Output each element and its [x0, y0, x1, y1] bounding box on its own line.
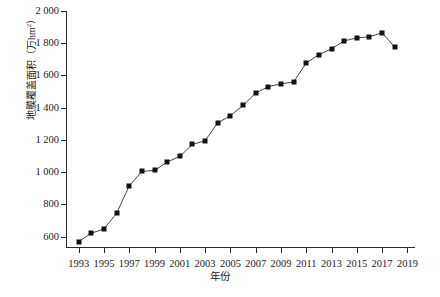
y-axis-tick-label: 1 000 — [35, 167, 59, 178]
y-axis-tick — [61, 140, 66, 141]
data-point — [76, 239, 81, 244]
data-point — [215, 120, 220, 125]
x-axis-line — [66, 247, 415, 248]
x-axis-tick — [205, 248, 206, 253]
x-axis-tick — [332, 248, 333, 253]
x-axis-tick — [357, 248, 358, 253]
data-point — [139, 169, 144, 174]
y-axis-tick-label: 600 — [43, 231, 59, 242]
x-axis-tick — [382, 248, 383, 253]
data-point — [228, 113, 233, 118]
data-point — [241, 103, 246, 108]
data-point — [190, 142, 195, 147]
data-point — [165, 160, 170, 165]
data-point — [354, 35, 359, 40]
data-point — [380, 30, 385, 35]
x-axis-tick — [79, 248, 80, 253]
y-axis-tick-label: 1 800 — [35, 38, 59, 49]
x-axis-tick — [155, 248, 156, 253]
y-axis-tick — [61, 108, 66, 109]
y-axis-tick-label: 1 400 — [35, 102, 59, 113]
data-point — [329, 46, 334, 51]
data-point — [89, 231, 94, 236]
data-point — [304, 60, 309, 65]
data-point — [177, 154, 182, 159]
data-point — [367, 34, 372, 39]
data-point — [127, 183, 132, 188]
data-point — [392, 45, 397, 50]
x-axis-tick — [129, 248, 130, 253]
y-axis-tick — [61, 11, 66, 12]
x-axis-tick — [306, 248, 307, 253]
y-axis-line — [66, 11, 67, 248]
x-axis-tick — [230, 248, 231, 253]
y-axis-tick — [61, 43, 66, 44]
data-point — [203, 138, 208, 143]
plot-region: 6008001 0001 2001 4001 6001 8002 000 199… — [66, 11, 415, 248]
y-axis-tick — [61, 172, 66, 173]
x-axis-tick — [180, 248, 181, 253]
data-point — [152, 168, 157, 173]
x-axis-title: 年份 — [0, 268, 440, 283]
data-point — [101, 226, 106, 231]
x-axis-tick — [104, 248, 105, 253]
data-point — [253, 91, 258, 96]
x-axis-tick — [407, 248, 408, 253]
x-axis-tick — [256, 248, 257, 253]
data-point — [278, 81, 283, 86]
y-axis-tick — [61, 204, 66, 205]
data-point — [266, 84, 271, 89]
x-axis-tick — [281, 248, 282, 253]
y-axis-tick-label: 800 — [43, 199, 59, 210]
data-point — [291, 79, 296, 84]
y-axis-tick — [61, 75, 66, 76]
y-axis-tick — [61, 237, 66, 238]
y-axis-title-superscript: 2 — [25, 24, 32, 27]
data-point — [342, 38, 347, 43]
figure-chart-area: 地膜覆盖面积（万hm2） 6008001 0001 2001 4001 6001… — [0, 0, 440, 297]
data-point — [114, 211, 119, 216]
y-axis-tick-label: 1 200 — [35, 135, 59, 146]
y-axis-tick-label: 1 600 — [35, 70, 59, 81]
data-point — [316, 52, 321, 57]
y-axis-tick-label: 2 000 — [35, 6, 59, 17]
